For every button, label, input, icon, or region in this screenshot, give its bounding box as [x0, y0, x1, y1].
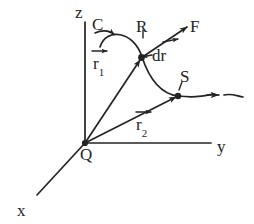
r2-arrow-line [85, 97, 176, 143]
vector-r1-base: r [93, 54, 99, 73]
vector-dr-label: dr [152, 47, 166, 64]
x-axis-label: x [17, 202, 26, 219]
y-axis-label: y [217, 138, 226, 155]
vector-r2-base: r [136, 115, 142, 134]
vector-r1-label: r1 [93, 55, 104, 75]
axes-group [37, 22, 211, 195]
origin-label: Q [80, 146, 92, 163]
z-axis-label: z [75, 4, 83, 21]
point-s-label: S [180, 68, 189, 85]
curve-c-tail [224, 94, 243, 97]
point-s-marker [175, 93, 181, 99]
position-vector-r2 [85, 97, 176, 143]
vector-r2-subscript: 2 [142, 127, 148, 139]
vector-diagram-figure: z y x Q C R S r1 r2 F dr [0, 0, 254, 224]
curve-c-path [100, 34, 214, 96]
point-r-marker [138, 54, 145, 61]
vector-r1-subscript: 1 [99, 66, 105, 78]
vector-r2-label: r2 [136, 116, 147, 136]
curve-c-label: C [92, 16, 103, 33]
f-vector-overbar-arrow [163, 39, 178, 42]
x-axis-line [37, 143, 85, 195]
diagram-canvas [0, 0, 254, 224]
vector-f-label: F [190, 18, 199, 35]
point-r-label: R [136, 18, 147, 35]
